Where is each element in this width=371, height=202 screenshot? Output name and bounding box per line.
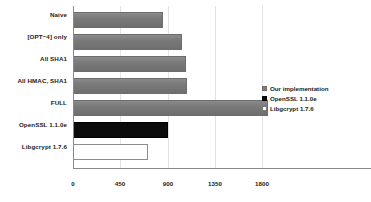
bar-chart: Naive [OPT−4] only All SHA1 All HMAC, SH… — [0, 0, 371, 202]
x-tick-0: 0 — [71, 180, 74, 188]
chart-legend: Our implementation OpenSSL 1.1.0e Libgcr… — [262, 84, 367, 114]
y-axis-line — [73, 6, 74, 168]
legend-label-libgcrypt: Libgcrypt 1.7.6 — [270, 105, 314, 112]
bar-all-hmac-sha1 — [73, 78, 187, 94]
y-axis-label-all-hmac-sha1: All HMAC, SHA1 — [0, 77, 67, 84]
bar-opt4-only — [73, 34, 182, 50]
legend-swatch-icon-our-implementation — [262, 86, 267, 91]
gridline-1350 — [215, 6, 216, 168]
x-axis-line — [73, 168, 371, 169]
y-axis-category-labels: Naive [OPT−4] only All SHA1 All HMAC, SH… — [0, 0, 70, 168]
y-axis-label-naive: Naive — [0, 11, 67, 18]
legend-item-our-implementation: Our implementation — [262, 84, 367, 93]
legend-item-libgcrypt: Libgcrypt 1.7.6 — [262, 104, 367, 113]
x-tick-1800: 1800 — [255, 180, 269, 188]
legend-label-openssl: OpenSSL 1.1.0e — [270, 95, 317, 102]
y-axis-label-openssl: OpenSSL 1.1.0e — [0, 121, 67, 128]
bar-openssl — [73, 122, 168, 138]
x-tick-450: 450 — [115, 180, 125, 188]
y-axis-label-opt4-only: [OPT−4] only — [0, 33, 67, 40]
bar-all-sha1 — [73, 56, 186, 72]
bar-libgcrypt — [73, 144, 148, 160]
y-axis-label-all-sha1: All SHA1 — [0, 55, 67, 62]
bar-naive — [73, 12, 163, 28]
legend-swatch-icon-openssl — [262, 96, 267, 101]
y-axis-label-libgcrypt: Libgcrypt 1.7.6 — [0, 143, 67, 150]
x-tick-900: 900 — [163, 180, 173, 188]
bar-full — [73, 100, 268, 116]
legend-item-openssl: OpenSSL 1.1.0e — [262, 94, 367, 103]
y-axis-label-full: FULL — [0, 99, 67, 106]
x-tick-1350: 1350 — [208, 180, 222, 188]
legend-label-our-implementation: Our implementation — [270, 85, 328, 92]
legend-swatch-icon-libgcrypt — [262, 106, 267, 111]
